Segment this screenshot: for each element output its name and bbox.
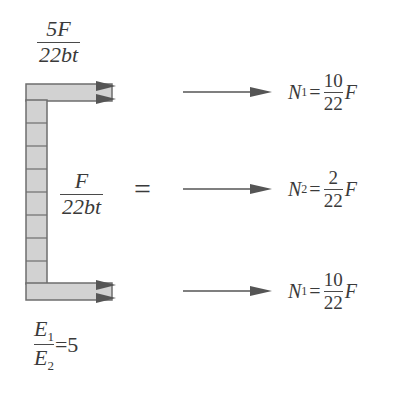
top-flange-stress-label: 5F 22bt — [37, 18, 80, 66]
force-fraction: 2 22 — [324, 168, 343, 210]
force-equation-middle: N2 = 2 22 F — [288, 168, 357, 210]
bottom-flange-stress-block — [26, 280, 116, 303]
numerator: E — [34, 316, 47, 341]
resultant-arrow-top — [183, 87, 272, 97]
web-stress-block — [26, 100, 47, 284]
modulus-ratio-label: E1 E2 =5 — [34, 318, 78, 373]
resultant-arrow-middle — [183, 184, 272, 194]
force-fraction: 10 22 — [324, 270, 343, 312]
denominator: 22bt — [37, 44, 80, 66]
force-fraction: 10 22 — [324, 71, 343, 113]
denominator: E — [34, 345, 47, 370]
ratio-value: =5 — [55, 332, 78, 358]
denominator: 22bt — [60, 196, 103, 218]
force-equation-top: N1 = 10 22 F — [288, 71, 357, 113]
force-equation-bottom: N1 = 10 22 F — [288, 270, 357, 312]
numerator: 5F — [44, 18, 72, 40]
web-stress-label: F 22bt — [60, 170, 103, 218]
resultant-arrow-bottom — [183, 286, 272, 296]
equivalence-sign: = — [134, 174, 151, 204]
numerator: F — [73, 170, 90, 192]
